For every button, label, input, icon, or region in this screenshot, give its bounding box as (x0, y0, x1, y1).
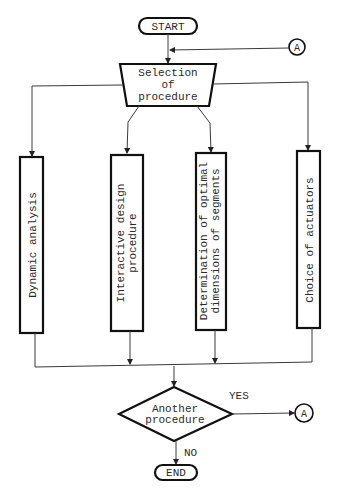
process-choice-of-actuators: Choice of actuators (297, 151, 320, 328)
edge-selection-proc2 (127, 106, 139, 153)
end-terminator: END (155, 465, 197, 480)
decision-another-procedure: Another procedure (119, 387, 232, 441)
start-label: START (151, 21, 184, 33)
edge-selection-proc3 (197, 106, 211, 152)
connector-a-top-label: A (294, 43, 300, 54)
selection-of-procedure-node: Selection of procedure (120, 64, 216, 106)
yes-label: YES (229, 390, 249, 402)
decision-line-2: procedure (145, 414, 204, 426)
start-terminator: START (139, 18, 197, 34)
edge-decision-connector (232, 413, 294, 414)
selection-line-3: procedure (138, 91, 197, 103)
selection-line-2: of (161, 79, 174, 91)
process-determination-optimal-dimensions: Determination of optimal dimensions of s… (196, 153, 226, 330)
connector-a-right: A (295, 404, 313, 422)
edge-connector-selection (170, 48, 289, 50)
connector-a-right-label: A (301, 409, 307, 420)
end-label: END (166, 467, 186, 479)
selection-line-1: Selection (138, 67, 197, 79)
proc3-line-1: Determination of optimal (198, 162, 210, 320)
proc2-line-2: procedure (127, 213, 139, 272)
process-dynamic-analysis: Dynamic analysis (20, 157, 43, 333)
proc3-line-2: dimensions of segments (210, 168, 222, 313)
edge-selection-proc1 (32, 85, 123, 156)
flowchart-canvas: START A Selection of procedure Dynamic a… (0, 0, 339, 501)
connector-a-top: A (289, 39, 305, 55)
edge-selection-proc4 (213, 82, 308, 150)
proc2-line-1: Interactive design (115, 184, 127, 303)
no-label: NO (184, 447, 198, 459)
process-interactive-design: Interactive design procedure (111, 155, 143, 331)
proc1-line-1: Dynamic analysis (27, 192, 39, 298)
proc4-line-1: Choice of actuators (304, 177, 316, 302)
